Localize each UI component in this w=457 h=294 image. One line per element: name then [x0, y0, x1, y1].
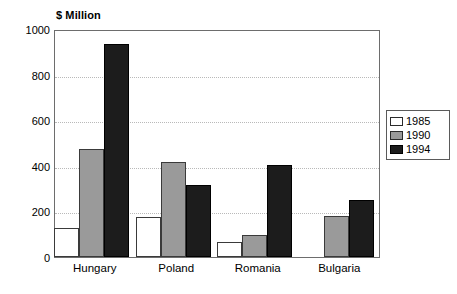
legend-item-1994[interactable]: 1994	[390, 142, 446, 156]
x-tick-label-bulgaria: Bulgaria	[318, 262, 360, 274]
legend-swatch-icon-1985	[390, 117, 403, 126]
y-tick-label: 800	[4, 70, 50, 82]
x-axis-labels: HungaryPolandRomaniaBulgaria	[54, 262, 380, 284]
x-tick-label-hungary: Hungary	[73, 262, 116, 274]
plot-area	[54, 30, 380, 258]
legend-label-1990: 1990	[406, 130, 430, 141]
bar-hungary-1985[interactable]	[54, 228, 79, 257]
bar-hungary-1990[interactable]	[79, 149, 104, 257]
y-tick-label: 0	[4, 252, 50, 264]
y-tick-label: 600	[4, 115, 50, 127]
legend-item-1985[interactable]: 1985	[390, 114, 446, 128]
bar-bulgaria-1990[interactable]	[324, 216, 349, 257]
legend-swatch-icon-1990	[390, 131, 403, 140]
bar-hungary-1994[interactable]	[104, 44, 129, 257]
legend-item-1990[interactable]: 1990	[390, 128, 446, 142]
bar-poland-1990[interactable]	[161, 162, 186, 257]
legend-label-1985: 1985	[406, 116, 430, 127]
bar-romania-1994[interactable]	[267, 165, 292, 257]
bar-poland-1994[interactable]	[186, 185, 211, 257]
bar-poland-1985[interactable]	[136, 217, 161, 257]
bar-romania-1990[interactable]	[242, 235, 267, 257]
bar-romania-1985[interactable]	[217, 242, 242, 257]
chart-title: $ Million	[56, 9, 101, 21]
y-tick-label: 200	[4, 206, 50, 218]
y-tick-label: 400	[4, 161, 50, 173]
y-tick-label: 1000	[4, 24, 50, 36]
legend: 198519901994	[386, 110, 450, 160]
x-tick-label-romania: Romania	[235, 262, 281, 274]
bar-bulgaria-1994[interactable]	[349, 200, 374, 257]
legend-label-1994: 1994	[406, 144, 430, 155]
bar-chart-figure: $ Million 02004006008001000 HungaryPolan…	[0, 0, 457, 294]
legend-swatch-icon-1994	[390, 145, 403, 154]
y-axis-labels: 02004006008001000	[0, 30, 50, 258]
x-tick-label-poland: Poland	[158, 262, 194, 274]
bars-layer	[55, 31, 379, 257]
